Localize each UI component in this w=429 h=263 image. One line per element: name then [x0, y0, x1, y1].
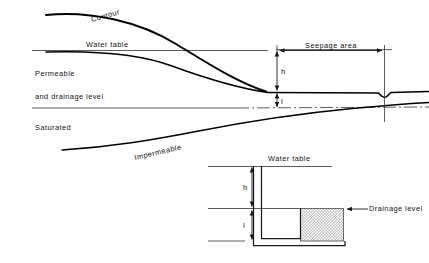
drainage-level-line-right — [236, 107, 429, 108]
h-dimension-label: h — [281, 67, 285, 76]
and-drainage-level-label: and drainage level — [35, 92, 104, 101]
permeable-label: Permeable — [35, 69, 75, 78]
water-table-right-with-drain-notch — [268, 92, 429, 98]
inset-l-dimension-label: l — [243, 221, 245, 230]
figure-canvas: Contour Water table Permeable and draina… — [0, 0, 429, 263]
contour-curve — [46, 14, 266, 91]
impermeable-curve — [62, 102, 429, 150]
contour-label: Contour — [90, 7, 121, 24]
inset-inner-channel — [262, 167, 301, 239]
diagram-svg: Contour Water table Permeable and draina… — [0, 0, 429, 263]
l-dimension-label: l — [281, 97, 283, 106]
seepage-area-label: Seepage area — [305, 41, 357, 50]
water-table-label: Water table — [86, 40, 128, 49]
inset-h-dimension-label: h — [243, 183, 247, 192]
inset-water-table-label: Water table — [268, 154, 310, 163]
saturated-label: Saturated — [35, 123, 71, 132]
drainage-level-label: Drainage level — [369, 204, 423, 213]
impermeable-label: Impermeable — [133, 142, 182, 162]
water-table-curve — [46, 52, 268, 93]
drainage-block-fill — [301, 209, 344, 242]
